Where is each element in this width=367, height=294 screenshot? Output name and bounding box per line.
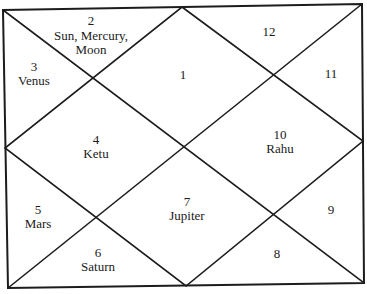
house-planets-line: Ketu (83, 146, 109, 161)
house-11: 11 (325, 66, 338, 81)
house-2: 2 Sun, Mercury, Moon (54, 13, 128, 57)
house-10: 10 Rahu (266, 127, 294, 156)
house-4: 4 Ketu (83, 132, 109, 161)
house-number: 3 (31, 59, 38, 74)
house-planets-line: Sun, Mercury, (54, 28, 128, 43)
house-3: 3 Venus (18, 59, 50, 88)
house-number: 10 (274, 127, 287, 142)
house-9: 9 (328, 202, 335, 217)
house-planets-line: Moon (75, 42, 107, 57)
house-12: 12 (263, 24, 276, 39)
diagonal-tr-bl (8, 4, 362, 288)
horoscope-chart: 1 2 Sun, Mercury, Moon 3 Venus 4 Ketu 5 … (0, 0, 367, 294)
house-number: 11 (325, 66, 338, 81)
house-number: 6 (95, 245, 102, 260)
house-5: 5 Mars (25, 202, 52, 231)
house-number: 7 (184, 194, 191, 209)
house-planets-line: Saturn (81, 259, 115, 274)
house-number: 8 (274, 246, 281, 261)
house-planets-line: Rahu (266, 141, 294, 156)
house-7: 7 Jupiter (169, 194, 205, 223)
house-planets-line: Mars (25, 216, 52, 231)
house-number: 9 (328, 202, 335, 217)
house-number: 12 (263, 24, 276, 39)
house-number: 5 (35, 202, 42, 217)
house-number: 1 (180, 67, 187, 82)
house-8: 8 (274, 246, 281, 261)
house-planets-line: Venus (18, 73, 50, 88)
house-1: 1 (180, 67, 187, 82)
house-number: 4 (93, 132, 100, 147)
house-number: 2 (88, 13, 95, 28)
house-planets-line: Jupiter (169, 208, 205, 223)
house-6: 6 Saturn (81, 245, 115, 274)
